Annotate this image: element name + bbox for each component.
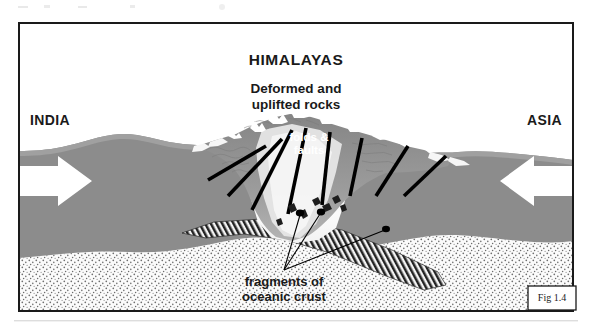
caption-line-2: oceanic crust xyxy=(242,289,326,304)
scan-baseline xyxy=(14,320,578,321)
label-folds-line-1: folds & xyxy=(290,131,329,143)
ophiolite-fragment-3 xyxy=(382,226,390,232)
cross-section-svg: HIMALAYAS Deformed and uplifted rocks IN… xyxy=(0,0,592,329)
ophiolite-fragment-1 xyxy=(296,210,304,217)
subtitle-line-1: Deformed and xyxy=(251,81,342,96)
figure-number-label: Fig 1.4 xyxy=(538,292,566,303)
label-india: INDIA xyxy=(30,112,70,128)
title-himalayas: HIMALAYAS xyxy=(249,51,344,68)
subtitle-line-2: uplifted rocks xyxy=(252,97,341,112)
label-folds-line-2: faults xyxy=(294,144,325,156)
caption-line-1: fragments of xyxy=(245,274,324,289)
figure-number-box: Fig 1.4 xyxy=(528,286,576,310)
illustration: HIMALAYAS Deformed and uplifted rocks IN… xyxy=(19,23,576,311)
label-asia: ASIA xyxy=(527,112,562,128)
ophiolite-fragment-2 xyxy=(317,209,325,216)
figure-root: HIMALAYAS Deformed and uplifted rocks IN… xyxy=(0,0,592,329)
